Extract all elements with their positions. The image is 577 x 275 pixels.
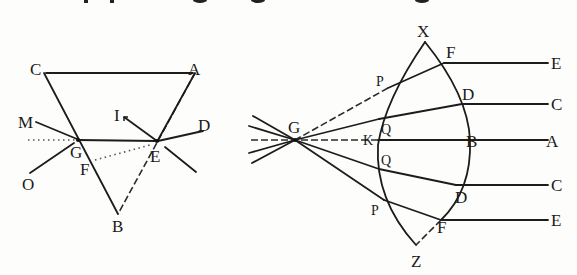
ray-o: [30, 143, 74, 173]
label-c-lower: C: [551, 176, 562, 195]
lens-figure: X Z G K B A P Q Q P F D D F E C C E: [249, 22, 562, 271]
label-d: D: [198, 116, 210, 135]
label-f-lower: F: [437, 218, 446, 237]
label-p-upper: P: [376, 74, 384, 89]
internal-ray: [78, 140, 157, 141]
ray-d: [158, 131, 203, 141]
label-k: K: [363, 133, 373, 148]
dotted-ray-f-e: [95, 145, 150, 160]
label-a: A: [188, 60, 201, 79]
normal-e: [165, 147, 196, 172]
label-e-bottom: E: [551, 211, 561, 230]
lens-left-surface: [378, 42, 425, 245]
ray-i: [124, 117, 157, 141]
diagram-svg: C A B G E F M O I D: [0, 0, 577, 275]
label-x: X: [417, 22, 429, 41]
label-e: E: [150, 147, 160, 166]
label-i: I: [114, 106, 120, 125]
label-d-lower: D: [455, 188, 467, 207]
label-f: F: [80, 160, 89, 179]
header-text-fragment: [84, 0, 429, 3]
label-b-lens: B: [466, 132, 477, 151]
label-z: Z: [411, 252, 421, 271]
label-m: M: [18, 113, 33, 132]
label-q-upper: Q: [381, 122, 391, 137]
label-p-lower: P: [371, 203, 379, 218]
label-c: C: [30, 60, 41, 79]
prism-figure: C A B G E F M O I D: [18, 60, 210, 236]
label-b: B: [112, 217, 123, 236]
label-c-upper: C: [551, 95, 562, 114]
optics-diagram: C A B G E F M O I D: [0, 0, 577, 275]
label-o: O: [22, 175, 34, 194]
label-g-focus: G: [288, 118, 300, 137]
label-a-axis: A: [546, 132, 559, 151]
label-q-lower: Q: [381, 153, 391, 168]
label-d-upper: D: [462, 85, 474, 104]
label-f-upper: F: [446, 43, 455, 62]
label-e-top: E: [551, 54, 561, 73]
